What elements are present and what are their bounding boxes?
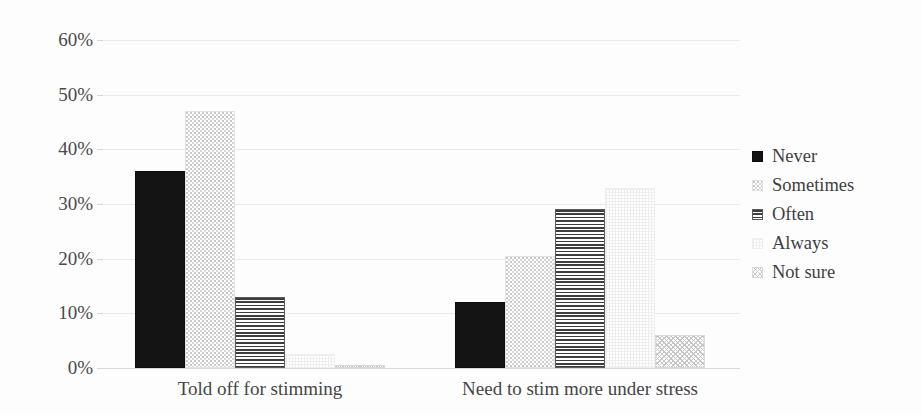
y-axis-tick-label: 30% — [58, 193, 93, 215]
bar-always[interactable] — [285, 354, 335, 368]
y-axis-tick-label: 10% — [58, 302, 93, 324]
bar-never[interactable] — [135, 171, 185, 368]
chart-legend: NeverSometimesOftenAlwaysNot sure — [752, 142, 917, 287]
plot-area — [103, 40, 740, 368]
y-axis-tick — [97, 368, 103, 369]
bar-not-sure[interactable] — [335, 365, 385, 368]
legend-item-not-sure[interactable]: Not sure — [752, 258, 917, 287]
chart-figure: 0%10%20%30%40%50%60% Told off for stimmi… — [0, 0, 921, 415]
y-axis-labels: 0%10%20%30%40%50%60% — [0, 40, 93, 368]
y-axis-tick — [97, 259, 103, 260]
y-axis-tick — [97, 149, 103, 150]
y-axis-tick-label: 40% — [58, 138, 93, 160]
y-axis-tick — [97, 313, 103, 314]
y-axis-tick — [97, 95, 103, 96]
bar-group — [455, 40, 705, 368]
axis-baseline — [103, 368, 740, 369]
legend-item-label: Never — [772, 147, 817, 166]
legend-swatch-icon — [752, 180, 763, 191]
y-axis-tick — [97, 40, 103, 41]
category-label: Need to stim more under stress — [462, 378, 698, 400]
y-axis-tick-label: 60% — [58, 29, 93, 51]
legend-item-label: Always — [772, 234, 829, 253]
y-axis-tick-label: 50% — [58, 84, 93, 106]
legend-item-sometimes[interactable]: Sometimes — [752, 171, 917, 200]
legend-item-often[interactable]: Often — [752, 200, 917, 229]
y-axis-tick-label: 0% — [68, 357, 93, 379]
legend-item-always[interactable]: Always — [752, 229, 917, 258]
bar-often[interactable] — [555, 209, 605, 368]
bar-never[interactable] — [455, 302, 505, 368]
bar-not-sure[interactable] — [655, 335, 705, 368]
legend-item-never[interactable]: Never — [752, 142, 917, 171]
legend-item-label: Not sure — [772, 263, 835, 282]
bar-sometimes[interactable] — [505, 256, 555, 368]
y-axis-tick — [97, 204, 103, 205]
legend-swatch-icon — [752, 238, 763, 249]
category-label: Told off for stimming — [178, 378, 343, 400]
legend-item-label: Often — [772, 205, 814, 224]
bar-often[interactable] — [235, 297, 285, 368]
legend-swatch-icon — [752, 151, 763, 162]
legend-swatch-icon — [752, 267, 763, 278]
bar-sometimes[interactable] — [185, 111, 235, 368]
legend-item-label: Sometimes — [772, 176, 854, 195]
legend-swatch-icon — [752, 209, 763, 220]
y-axis-tick-label: 20% — [58, 248, 93, 270]
bar-group — [135, 40, 385, 368]
bar-always[interactable] — [605, 188, 655, 368]
